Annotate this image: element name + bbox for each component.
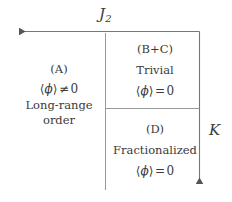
- region-a-ket: ⟩: [53, 82, 58, 96]
- region-bc-value: 0: [166, 84, 174, 98]
- region-a-value: 0: [70, 82, 78, 96]
- axis-label-k: K: [209, 123, 220, 138]
- region-bc-ket: ⟩: [149, 84, 154, 98]
- region-a-tag: (A): [14, 64, 104, 76]
- region-a-name-line1: Long-range: [14, 100, 104, 112]
- region-bc-relation: =: [155, 84, 165, 98]
- phase-diagram: J2 K (A) ⟨ϕ⟩≠0 Long-range order (B+C) Tr…: [0, 0, 232, 202]
- region-a-name-line2: order: [14, 115, 104, 127]
- region-d: (D) Fractionalized ⟨ϕ⟩=0: [108, 124, 202, 186]
- region-d-phi: ϕ: [141, 164, 149, 178]
- axis-label-j2-subscript: 2: [105, 13, 111, 24]
- region-bc-order-parameter: ⟨ϕ⟩=0: [108, 85, 202, 97]
- region-a: (A) ⟨ϕ⟩≠0 Long-range order: [14, 64, 104, 134]
- region-bc-tag: (B+C): [108, 44, 202, 56]
- region-a-order-parameter: ⟨ϕ⟩≠0: [14, 83, 104, 95]
- region-bc-phi: ϕ: [141, 84, 149, 98]
- region-d-ket: ⟩: [149, 164, 154, 178]
- axis-label-j2: J2: [99, 7, 112, 24]
- region-d-name: Fractionalized: [108, 145, 202, 157]
- region-d-value: 0: [166, 164, 174, 178]
- region-a-relation: ≠: [59, 82, 69, 96]
- axis-label-k-text: K: [209, 121, 220, 139]
- region-d-relation: =: [155, 164, 165, 178]
- region-d-tag: (D): [108, 124, 202, 136]
- region-bc: (B+C) Trivial ⟨ϕ⟩=0: [108, 44, 202, 106]
- region-d-order-parameter: ⟨ϕ⟩=0: [108, 165, 202, 177]
- region-bc-name: Trivial: [108, 65, 202, 77]
- region-a-phi: ϕ: [45, 82, 53, 96]
